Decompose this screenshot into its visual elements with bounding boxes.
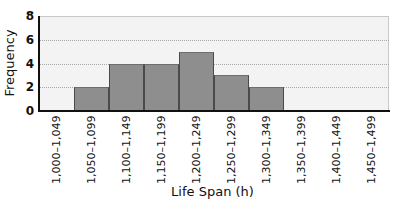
- y-axis: [38, 16, 40, 112]
- x-tick-label: 1,050–1,099: [86, 116, 98, 184]
- histogram-bar: [214, 75, 249, 111]
- histogram-bar: [74, 87, 109, 111]
- x-tick-label: 1,450–1,499: [366, 116, 378, 184]
- y-tick-label: 2: [14, 81, 34, 93]
- histogram-bar: [109, 64, 144, 112]
- x-axis: [38, 110, 390, 112]
- gridline: [39, 40, 389, 41]
- y-tick-label: 8: [14, 10, 34, 22]
- histogram-chart: 02468 1,000–1,0491,050–1,0991,100–1,1491…: [0, 0, 395, 203]
- x-tick-label: 1,400–1,449: [331, 116, 343, 184]
- x-axis-label: Life Span (h): [0, 184, 395, 199]
- histogram-bar: [179, 52, 214, 111]
- y-tick-label: 4: [14, 58, 34, 70]
- y-tick-label: 6: [14, 34, 34, 46]
- x-tick-label: 1,100–1,149: [121, 116, 133, 184]
- y-axis-label: Frequency: [2, 29, 17, 96]
- x-tick-label: 1,150–1,199: [156, 116, 168, 184]
- y-tick-label: 0: [14, 105, 34, 117]
- x-tick-label: 1,300–1,349: [261, 116, 273, 184]
- x-tick-label: 1,250–1,299: [226, 116, 238, 184]
- histogram-bar: [249, 87, 284, 111]
- x-tick-label: 1,350–1,399: [296, 116, 308, 184]
- gridline: [39, 64, 389, 65]
- x-tick-label: 1,000–1,049: [51, 116, 63, 184]
- histogram-bar: [144, 64, 179, 112]
- x-tick-label: 1,200–1,249: [191, 116, 203, 184]
